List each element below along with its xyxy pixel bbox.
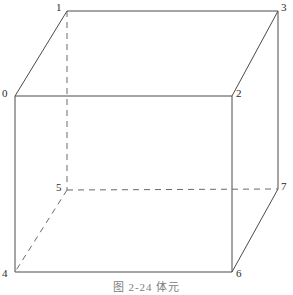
solid-edges-group — [15, 11, 278, 272]
vertex-label-3: 3 — [281, 2, 287, 13]
vertex-label-0: 0 — [2, 88, 8, 99]
cube-figure: 01234567 图 2-24 体元 — [0, 0, 293, 295]
vertex-label-2: 2 — [236, 88, 242, 99]
figure-caption: 图 2-24 体元 — [0, 281, 293, 294]
dashed-edges-group — [15, 11, 278, 272]
cube-diagram — [0, 0, 293, 295]
edge-5-7 — [67, 189, 278, 190]
vertex-label-7: 7 — [281, 181, 287, 192]
edge-5-4 — [15, 190, 67, 272]
vertex-label-1: 1 — [56, 2, 62, 13]
vertex-label-5: 5 — [56, 182, 62, 193]
edge-6-7 — [232, 189, 278, 272]
vertex-label-4: 4 — [2, 268, 8, 279]
edge-3-2 — [232, 11, 278, 96]
edge-0-1 — [15, 11, 67, 96]
vertex-label-6: 6 — [236, 268, 242, 279]
